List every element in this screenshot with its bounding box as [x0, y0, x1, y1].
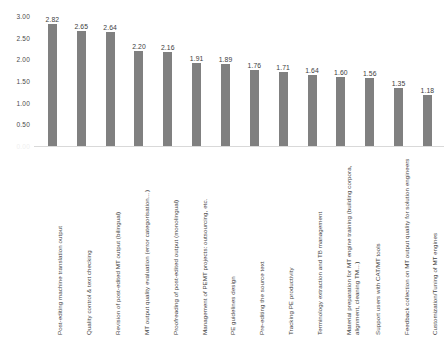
bar-slot: 2.65 [67, 16, 96, 146]
x-axis-label: Quality control & text checking [85, 149, 93, 335]
bar-slot: 1.89 [211, 16, 240, 146]
bar[interactable] [423, 95, 432, 146]
x-axis-label-slot: Management of PEMT projects: outsourcing… [182, 149, 211, 335]
x-axis-label-slot: Terminology extraction and TB management [298, 149, 327, 335]
bar-value-label: 1.71 [276, 64, 290, 71]
bar-slot: 1.60 [326, 16, 355, 146]
bar-slot: 1.76 [240, 16, 269, 146]
bar-value-label: 1.18 [421, 87, 435, 94]
x-axis-labels: Post-editing machine translation outputQ… [38, 149, 442, 335]
bar-value-label: 2.65 [74, 23, 88, 30]
x-axis-label: Proofreading of post-edited output (mono… [172, 149, 180, 335]
x-axis-label-slot: Quality control & text checking [67, 149, 96, 335]
bar[interactable] [336, 77, 345, 146]
bar[interactable] [394, 88, 403, 147]
x-axis-label: Pre-editing the source text [258, 149, 266, 335]
bar[interactable] [308, 75, 317, 146]
y-axis-tick: 3.00 [17, 13, 30, 20]
x-axis-label-slot: Revision of post-edited MT output (bilin… [96, 149, 125, 335]
bar-slot: 2.64 [96, 16, 125, 146]
y-axis: 3.002.502.001.501.000.500.00 [0, 16, 34, 146]
x-axis-label: Terminology extraction and TB management [316, 149, 324, 335]
y-axis-tick: 2.50 [17, 34, 30, 41]
bar-slot: 1.56 [355, 16, 384, 146]
bar-slot: 2.82 [38, 16, 67, 146]
bar[interactable] [134, 51, 143, 146]
bar[interactable] [279, 72, 288, 146]
x-axis-label: Revision of post-edited MT output (bilin… [114, 149, 122, 335]
x-axis-label-slot: Material preparation for MT engine train… [326, 149, 355, 335]
x-axis-label: Feedback collection on MT output quality… [403, 149, 411, 335]
bar-value-label: 1.91 [190, 55, 204, 62]
y-axis-tick: 0.50 [17, 121, 30, 128]
bar-value-label: 1.76 [248, 62, 262, 69]
x-axis-label-slot: Pre-editing the source text [240, 149, 269, 335]
bar-slot: 1.71 [269, 16, 298, 146]
x-axis-label-slot: Proofreading of post-edited output (mono… [153, 149, 182, 335]
x-axis-label-slot: Feedback collection on MT output quality… [384, 149, 413, 335]
bar[interactable] [77, 31, 86, 146]
y-axis-tick: 1.00 [17, 99, 30, 106]
bar-slot: 1.35 [384, 16, 413, 146]
bar-value-label: 1.35 [392, 80, 406, 87]
bar-slot: 1.64 [298, 16, 327, 146]
x-axis-label-slot: PE guidelines design [211, 149, 240, 335]
bar-chart: 3.002.502.001.501.000.500.00 2.822.652.6… [0, 0, 448, 337]
bar-value-label: 2.64 [103, 24, 117, 31]
bar-value-label: 2.16 [161, 44, 175, 51]
x-axis-label-slot: Customization/Tuning of MT engines [413, 149, 442, 335]
bar-value-label: 2.20 [132, 43, 146, 50]
x-axis-baseline [34, 146, 444, 147]
bar-slot: 1.91 [182, 16, 211, 146]
bar[interactable] [365, 78, 374, 146]
x-axis-label-slot: Tracking PE productivity [269, 149, 298, 335]
bar-slot: 2.16 [153, 16, 182, 146]
bar-value-label: 1.89 [219, 56, 233, 63]
bar-value-label: 2.82 [46, 16, 60, 23]
x-axis-label: Post-editing machine translation output [56, 149, 64, 335]
y-axis-tick: 1.50 [17, 78, 30, 85]
bar[interactable] [48, 24, 57, 146]
x-axis-label: Tracking PE productivity [287, 149, 295, 335]
bar-value-label: 1.64 [305, 67, 319, 74]
y-axis-tick: 2.00 [17, 56, 30, 63]
bar[interactable] [106, 32, 115, 146]
x-axis-label-slot: Post-editing machine translation output [38, 149, 67, 335]
x-axis-label: Management of PEMT projects: outsourcing… [201, 149, 209, 335]
y-axis-tick: 0.00 [17, 143, 30, 150]
bar-series: 2.822.652.642.202.161.911.891.761.711.64… [38, 16, 442, 146]
x-axis-label: MT output quality evaluation (error cate… [143, 149, 151, 335]
x-axis-label-slot: MT output quality evaluation (error cate… [125, 149, 154, 335]
bar[interactable] [250, 70, 259, 146]
x-axis-label: Support users with CAT/MT tools [374, 149, 382, 335]
x-axis-label: Customization/Tuning of MT engines [431, 149, 439, 335]
bar-slot: 1.18 [413, 16, 442, 146]
x-axis-label-slot: Support users with CAT/MT tools [355, 149, 384, 335]
bar-value-label: 1.60 [334, 69, 348, 76]
bar[interactable] [221, 64, 230, 146]
x-axis-label: PE guidelines design [229, 149, 237, 335]
bar-slot: 2.20 [125, 16, 154, 146]
bar[interactable] [192, 63, 201, 146]
bar[interactable] [163, 52, 172, 146]
bar-value-label: 1.56 [363, 70, 377, 77]
